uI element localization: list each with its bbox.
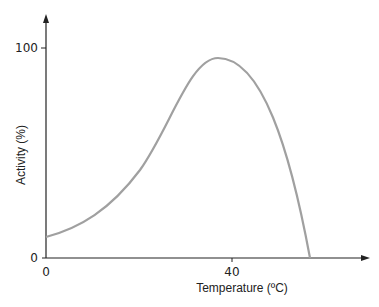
x-tick-label-40: 40 (224, 265, 239, 279)
y-tick-label-100: 100 (15, 41, 38, 55)
x-axis-label: Temperature (ºC) (196, 281, 288, 295)
chart: 100 0 0 40 Temperature (ºC) Activity (%) (0, 0, 379, 307)
activity-curve (46, 58, 310, 258)
x-tick-label-0: 0 (42, 265, 50, 279)
y-axis-label: Activity (%) (14, 125, 28, 185)
y-axis-arrow-icon (43, 14, 49, 23)
y-tick-label-0: 0 (30, 251, 38, 265)
x-axis-arrow-icon (361, 255, 370, 261)
